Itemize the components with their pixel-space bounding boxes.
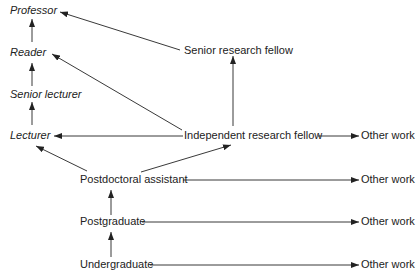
node-senior-lecturer: Senior lecturer: [10, 88, 82, 101]
node-other-work-4: Other work: [361, 258, 415, 271]
node-other-work-1: Other work: [361, 129, 415, 142]
node-other-work-2: Other work: [361, 173, 415, 186]
node-lecturer: Lecturer: [10, 129, 50, 142]
node-independent-research-fellow: Independent research fellow: [184, 129, 322, 142]
node-professor: Professor: [10, 4, 57, 17]
node-postdoctoral-assistant: Postdoctoral assistant: [80, 173, 188, 186]
node-senior-research-fellow: Senior research fellow: [184, 44, 293, 57]
node-postgraduate: Postgraduate: [80, 215, 145, 228]
node-undergraduate: Undergraduate: [80, 258, 153, 271]
node-reader: Reader: [10, 46, 46, 59]
node-other-work-3: Other work: [361, 215, 415, 228]
